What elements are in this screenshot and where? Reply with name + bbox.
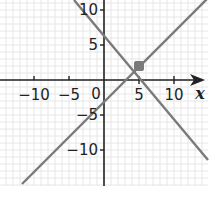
- intersection-point: [134, 61, 144, 71]
- x-tick-label: 5: [134, 86, 144, 104]
- x-tick-label: −10: [18, 86, 50, 104]
- x-tick-label: 10: [164, 86, 183, 104]
- y-tick-label: −5: [76, 106, 98, 124]
- x-tick-label: −5: [58, 86, 80, 104]
- x-axis-label: x: [194, 84, 205, 103]
- y-tick-label: 5: [88, 36, 98, 54]
- coordinate-plane: −10 −5 0 5 10 x 10 5 −5 −10: [0, 0, 216, 202]
- y-tick-label: 10: [79, 1, 98, 19]
- y-tick-label: −10: [66, 141, 98, 159]
- origin-label: 0: [91, 85, 101, 103]
